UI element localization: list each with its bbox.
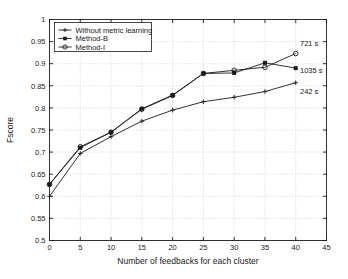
y-axis-tick-label: 0.85 (31, 82, 46, 91)
x-axis-tick-label: 40 (292, 243, 300, 252)
fscore-line-chart: 0.50.550.60.650.70.750.80.850.90.9510510… (0, 0, 348, 279)
chart-figure: 0.50.550.60.650.70.750.80.850.90.9510510… (0, 0, 348, 279)
x-axis-tick-label: 15 (138, 243, 146, 252)
data-point-marker (63, 37, 67, 41)
y-axis-tick-label: 0.65 (31, 170, 46, 179)
x-axis-tick-label: 45 (322, 243, 330, 252)
y-axis-tick-label: 0.6 (35, 192, 45, 201)
x-axis-tick-label: 5 (78, 243, 82, 252)
x-axis-tick-label: 25 (199, 243, 207, 252)
y-axis-tick-label: 1 (41, 15, 45, 24)
y-axis-title: Fscore (5, 117, 15, 143)
legend-item-label-3: Method-I (76, 43, 106, 52)
x-axis-tick-label: 20 (168, 243, 176, 252)
y-axis-tick-label: 0.5 (35, 236, 45, 245)
x-axis-tick-label: 35 (261, 243, 269, 252)
x-axis-tick-label: 30 (230, 243, 238, 252)
x-axis-tick-label: 0 (47, 243, 51, 252)
annotation-label: 721 s (300, 39, 319, 48)
x-axis-tick-label: 10 (107, 243, 115, 252)
y-axis-tick-label: 0.9 (35, 59, 45, 68)
y-axis-tick-label: 0.95 (31, 37, 46, 46)
data-point-marker (294, 66, 298, 70)
data-point-marker (263, 61, 267, 65)
y-axis-tick-label: 0.55 (31, 214, 46, 223)
x-axis-title: Number of feedbacks for each cluster (117, 256, 258, 266)
y-axis-tick-label: 0.7 (35, 148, 45, 157)
y-axis-tick-label: 0.75 (31, 126, 46, 135)
annotation-label: 1035 s (300, 66, 323, 75)
annotation-label: 242 s (300, 87, 319, 96)
y-axis-tick-label: 0.8 (35, 104, 45, 113)
